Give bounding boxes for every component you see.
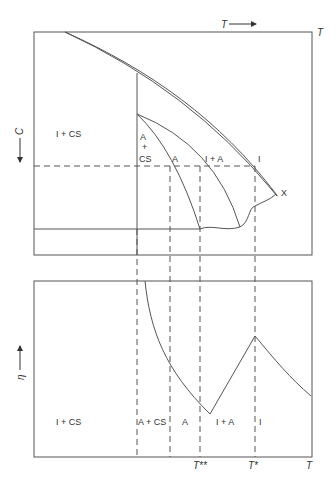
region-label-a-cs-2: + xyxy=(142,142,147,152)
x-axis-label: T xyxy=(317,27,324,38)
top-panel: I + CS A + CS A I + A I X T T C xyxy=(14,19,324,255)
phase-diagram: I + CS A + CS A I + A I X T T C I + CS A… xyxy=(0,0,336,480)
x-tick-t-star: T* xyxy=(248,460,259,471)
y-axis-label-c: C xyxy=(14,127,25,135)
a-cs-boundary-curve xyxy=(137,114,200,229)
bottom-region-i: I xyxy=(259,417,262,427)
wavy-lower-curve xyxy=(200,194,276,229)
region-label-i-cs: I + CS xyxy=(56,129,81,139)
bottom-region-a: A xyxy=(182,417,188,427)
top-panel-frame xyxy=(34,32,312,255)
dashed-temperature-lines xyxy=(137,166,255,457)
x-axis-arrow-label: T xyxy=(221,19,228,30)
bottom-panel: I + CS A + CS A I + A I T** T* T η xyxy=(15,281,313,471)
eta-decaying-curve xyxy=(255,336,311,396)
point-label-x: X xyxy=(281,188,287,198)
x-tick-t-double-star: T** xyxy=(193,460,208,471)
region-label-a-cs-3: CS xyxy=(139,154,152,164)
region-label-a-cs-1: A xyxy=(140,132,146,142)
upper-boundary-curve xyxy=(65,32,277,196)
region-label-a: A xyxy=(172,154,178,164)
x-tick-t: T xyxy=(306,460,313,471)
bottom-region-i-a: I + A xyxy=(216,417,234,427)
bottom-region-a-cs: A + CS xyxy=(138,417,166,427)
eta-rising-line xyxy=(210,336,255,414)
y-axis-label-eta: η xyxy=(15,374,26,380)
bottom-region-i-cs: I + CS xyxy=(56,417,81,427)
region-label-i: I xyxy=(258,154,261,164)
region-label-i-a: I + A xyxy=(205,154,223,164)
